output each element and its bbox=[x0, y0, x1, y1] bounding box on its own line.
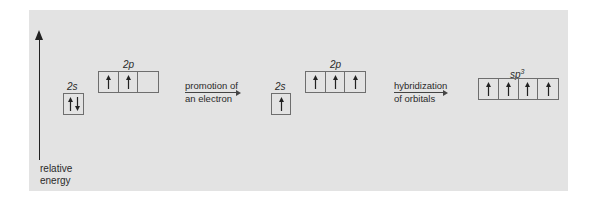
electron-spin-up-icon bbox=[506, 82, 511, 96]
excited-2p-boxes bbox=[305, 71, 366, 93]
electron-spin-up-icon bbox=[546, 82, 551, 96]
orbital-cell bbox=[326, 72, 346, 92]
diagram-panel bbox=[29, 10, 568, 191]
electron-spin-up-icon bbox=[525, 82, 530, 96]
hybridization-step-label: hybridization of orbitals bbox=[394, 80, 450, 106]
orbital-cell bbox=[64, 94, 83, 114]
orbital-cell bbox=[306, 72, 326, 92]
electron-spin-up-icon bbox=[333, 75, 338, 89]
electron-spin-up-icon bbox=[486, 82, 491, 96]
step1-line1: promotion of bbox=[185, 80, 241, 91]
reaction-arrow-head-icon bbox=[236, 90, 241, 96]
orbital-cell bbox=[479, 79, 499, 99]
electron-spin-up-icon bbox=[279, 97, 284, 111]
orbital-cell bbox=[345, 72, 365, 92]
ground-2s-label: 2s bbox=[67, 81, 78, 92]
orbital-cell bbox=[519, 79, 539, 99]
excited-2p-label: 2p bbox=[330, 59, 341, 70]
electron-spin-up-icon bbox=[106, 75, 111, 89]
promotion-step-label: promotion of an electron bbox=[185, 80, 241, 106]
axis-arrow-head-icon bbox=[35, 30, 43, 40]
axis-label-line2: energy bbox=[40, 175, 71, 186]
excited-2s-label: 2s bbox=[275, 81, 286, 92]
step1-line2: an electron bbox=[185, 93, 232, 104]
energy-axis-line bbox=[39, 38, 40, 160]
orbital-cell bbox=[499, 79, 519, 99]
orbital-cell bbox=[99, 72, 119, 92]
electron-spin-up-icon bbox=[68, 97, 73, 111]
orbital-cell bbox=[272, 94, 290, 114]
orbital-cell-empty bbox=[138, 72, 158, 92]
ground-2p-boxes bbox=[98, 71, 159, 93]
step2-line2: of orbitals bbox=[394, 93, 435, 104]
excited-2s-box bbox=[271, 93, 291, 115]
electron-spin-down-icon bbox=[75, 97, 80, 111]
electron-spin-up-icon bbox=[353, 75, 358, 89]
reaction-arrow-head-icon bbox=[443, 90, 448, 96]
ground-2s-box bbox=[63, 93, 84, 115]
step2-line1: hybridization bbox=[394, 80, 450, 91]
orbital-cell bbox=[119, 72, 139, 92]
electron-spin-up-icon bbox=[126, 75, 131, 89]
ground-2p-label: 2p bbox=[123, 59, 134, 70]
sp3-label-superscript: 3 bbox=[521, 68, 525, 75]
axis-label-line1: relative bbox=[40, 163, 72, 174]
sp3-hybrid-boxes bbox=[478, 78, 559, 100]
orbital-cell bbox=[538, 79, 558, 99]
electron-spin-up-icon bbox=[313, 75, 318, 89]
